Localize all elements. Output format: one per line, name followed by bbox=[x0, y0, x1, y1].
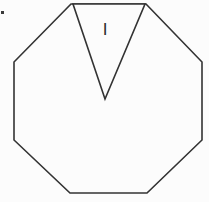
geometry-figure-canvas: I bbox=[0, 0, 209, 202]
region-label-one: I bbox=[103, 20, 108, 39]
scan-speck-artifact bbox=[1, 11, 4, 14]
figure-svg: I bbox=[0, 0, 209, 202]
